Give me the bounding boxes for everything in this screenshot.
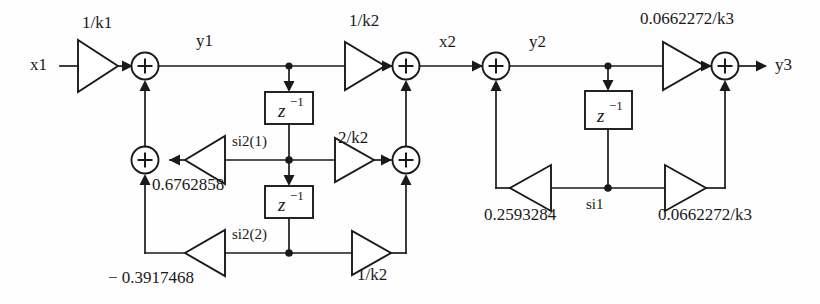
label-gain-0-6762858: 0.6762858 (152, 175, 224, 194)
arrowhead-into-delay-s2-1 (284, 81, 295, 92)
delay-box-section2-1 (265, 92, 313, 124)
flowgraph-canvas: z −1 z −1 (0, 0, 820, 304)
arrowhead-output-y3 (756, 61, 767, 72)
gain-triangle-0662272-k3-top (663, 42, 705, 90)
arrowhead-into-adder2 (382, 61, 393, 72)
label-y2: y2 (529, 32, 546, 51)
gain-triangle-1-over-k1 (78, 40, 118, 92)
label-gain-2-over-k2: 2/k2 (338, 128, 368, 147)
arrowhead-into-adder6-bottom (720, 80, 731, 91)
arrowhead-into-adder1-bottom (140, 80, 151, 91)
label-gain-1-over-k1: 1/k1 (82, 13, 112, 32)
label-si1: si1 (586, 196, 604, 212)
delay-s1-exponent: −1 (609, 98, 623, 113)
arrowhead-into-delay-s2-2 (284, 175, 295, 186)
arrowhead-into-adder3-bottom (491, 80, 502, 91)
label-gain-0662272-k3-top: 0.0662272/k3 (640, 9, 734, 28)
label-gain-0-2593284: 0.2593284 (484, 205, 557, 224)
arrowhead-into-adder5-bottom (401, 174, 412, 185)
label-y1: y1 (196, 31, 213, 50)
arrowhead-into-adder4-bottom (140, 174, 151, 185)
label-si2-1: si2(1) (232, 133, 267, 150)
arrowhead-into-adder3 (472, 61, 483, 72)
delay-s2-2-z: z (277, 194, 286, 215)
arrowhead-into-adder5-left (381, 155, 392, 166)
label-gain-neg-0-3917468: − 0.3917468 (108, 268, 194, 287)
label-gain-0662272-k3-bottom: 0.0662272/k3 (658, 205, 752, 224)
arrowhead-into-delay-s1 (603, 80, 614, 91)
label-x2: x2 (439, 32, 456, 51)
label-si2-2: si2(2) (232, 226, 267, 243)
delay-s1-z: z (596, 105, 605, 126)
arrowhead-into-adder2-bottom (401, 80, 412, 91)
gain-triangle-1-over-k2-top (345, 42, 385, 90)
delay-s2-1-z: z (277, 100, 286, 121)
arrowhead-into-adder6 (701, 61, 712, 72)
label-gain-1-over-k2-top: 1/k2 (349, 11, 379, 30)
delay-s2-2-exponent: −1 (290, 188, 304, 203)
label-x1: x1 (30, 55, 47, 74)
delay-box-section2-2 (265, 186, 313, 218)
arrowhead-into-adder4-right (169, 155, 180, 166)
label-y3: y3 (775, 55, 792, 74)
label-gain-1-over-k2-bottom: 1/k2 (357, 265, 387, 284)
signal-flow-diagram: z −1 z −1 (0, 0, 820, 304)
delay-s2-1-exponent: −1 (290, 94, 304, 109)
